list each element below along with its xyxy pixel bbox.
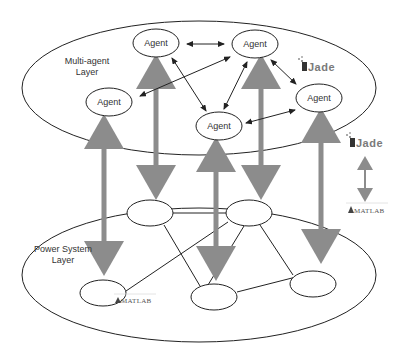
agent-a4[interactable]: Agent (196, 112, 242, 140)
agent-a3[interactable]: Agent (86, 88, 132, 116)
svg-text:MATLAB: MATLAB (121, 297, 152, 305)
svg-text:Jade: Jade (356, 137, 383, 149)
power-node-p2[interactable] (226, 200, 272, 226)
svg-text:Jade: Jade (308, 61, 335, 73)
power-node-p5[interactable] (290, 271, 336, 297)
power-system-layer-label-1: Power System (34, 244, 92, 254)
agent-a1[interactable]: Agent (133, 29, 179, 57)
power-node-p1[interactable] (127, 200, 173, 226)
multi-agent-layer-label-2: Layer (76, 67, 99, 77)
agent-a5[interactable]: Agent (296, 84, 342, 112)
agent-label: Agent (144, 38, 168, 48)
power-node-p4[interactable] (191, 284, 237, 310)
power-system-layer-label-2: Layer (52, 255, 75, 265)
jade-logo-icon: Jade (298, 56, 335, 73)
agent-label: Agent (307, 93, 331, 103)
architecture-diagram: Agent Agent Agent Agent Agent Multi-agen… (0, 0, 408, 346)
legend-jade-logo-icon: Jade (346, 132, 383, 149)
multi-agent-layer-label-1: Multi-agent (65, 56, 110, 66)
agent-label: Agent (243, 39, 267, 49)
agent-label: Agent (97, 97, 121, 107)
legend-matlab-logo-icon: MATLAB (346, 203, 388, 215)
agent-a2[interactable]: Agent (232, 30, 278, 58)
svg-text:MATLAB: MATLAB (354, 207, 385, 215)
agent-label: Agent (207, 121, 231, 131)
